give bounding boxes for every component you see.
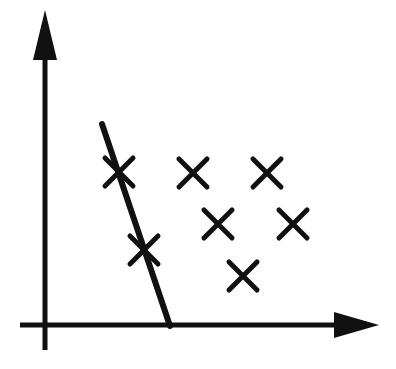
figure-container — [0, 0, 396, 369]
scatter-plot-figure — [0, 0, 396, 369]
